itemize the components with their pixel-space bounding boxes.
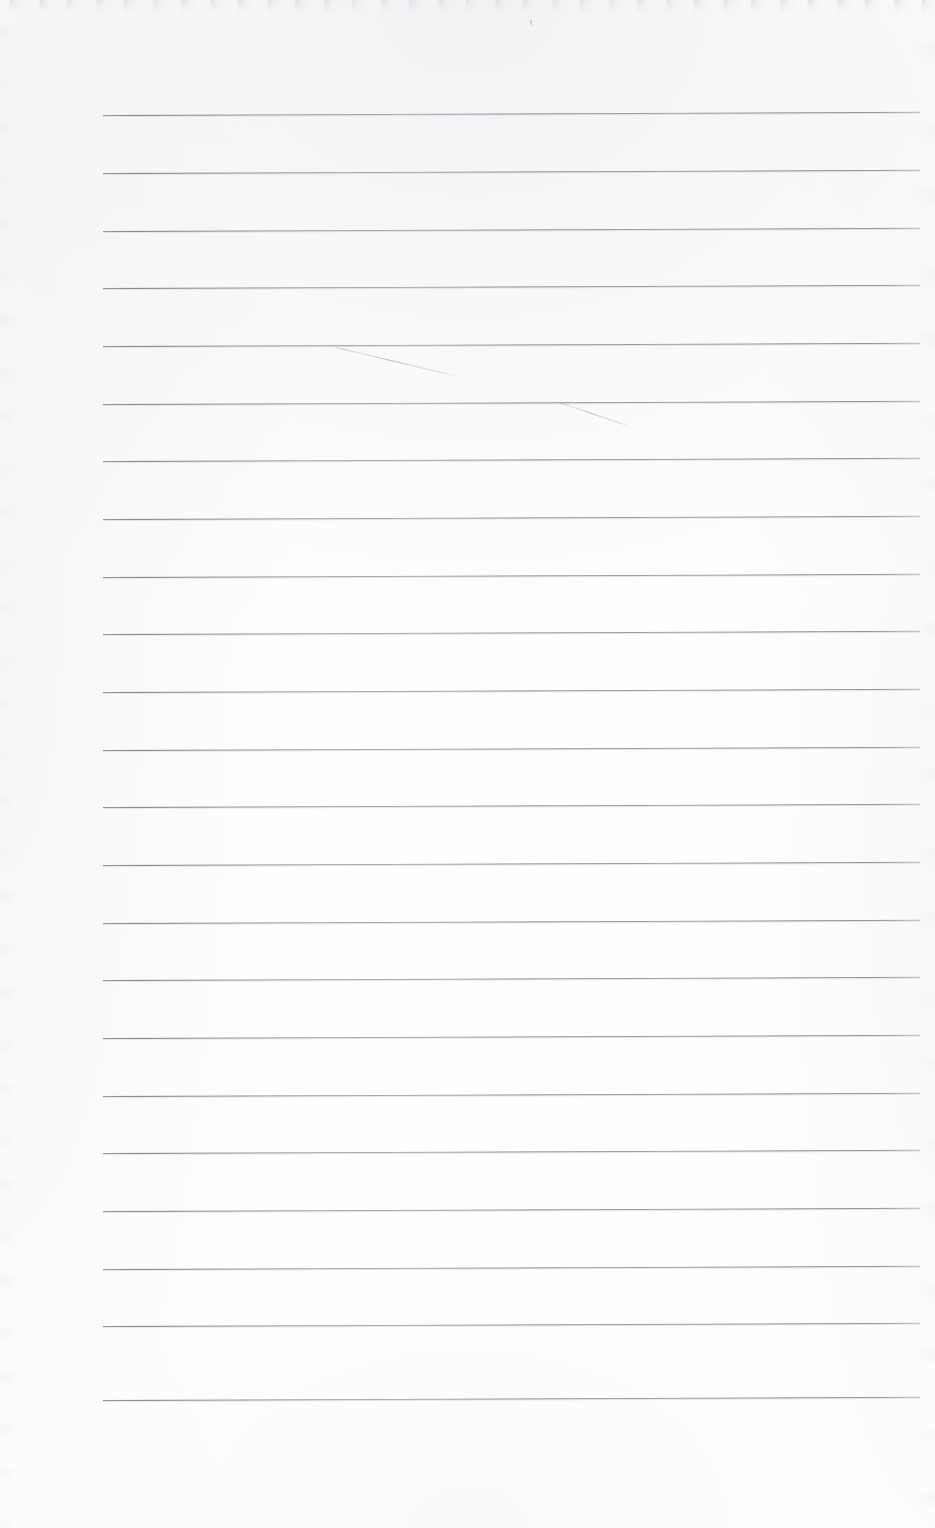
rule-line (103, 1397, 920, 1401)
rule-line (103, 1150, 920, 1154)
rule-line (103, 631, 920, 635)
rule-line (103, 920, 920, 924)
rule-line (103, 401, 920, 405)
rule-line (103, 574, 920, 578)
rule-line (103, 1093, 920, 1097)
rule-line (103, 1208, 920, 1212)
rule-line (103, 804, 920, 808)
rule-line (103, 343, 920, 347)
rule-line (103, 112, 920, 116)
rule-line (103, 1323, 920, 1327)
rule-line (103, 862, 920, 866)
rule-line (103, 285, 920, 289)
rule-line (103, 689, 920, 693)
rule-line (103, 516, 920, 520)
rule-line (103, 1266, 920, 1270)
rule-line (103, 747, 920, 751)
rule-line (103, 458, 920, 462)
rule-line (103, 977, 920, 981)
rule-line (103, 1035, 920, 1039)
rule-line (103, 228, 920, 232)
scanned-page: Scanned blank ruled notebook page with n… (0, 0, 935, 1528)
rule-line (103, 170, 920, 174)
ruled-lines-group (0, 0, 935, 1528)
